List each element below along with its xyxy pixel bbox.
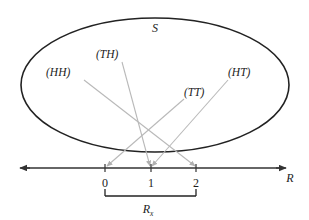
bracket-label-Rx: Rx xyxy=(142,202,154,218)
mapping-arrows xyxy=(84,62,228,166)
sample-space-ellipse xyxy=(21,18,289,152)
range-bracket-group: Rx xyxy=(105,189,196,218)
axis-tick-label-0: 0 xyxy=(102,176,108,190)
outcome-label-HH: (HH) xyxy=(46,66,70,79)
axis-tick-label-1: 1 xyxy=(148,176,154,190)
axis-group: 0 1 2 R xyxy=(20,164,294,190)
outcome-label-TT: (TT) xyxy=(184,86,205,99)
outcome-label-HT: (HT) xyxy=(228,66,251,79)
outcome-label-TH: (TH) xyxy=(96,48,119,61)
arrow-TT-to-0 xyxy=(107,99,184,166)
probability-sample-space-diagram: S (HH) (TH) (TT) (HT) 0 1 2 R Rx xyxy=(0,0,309,220)
arrow-HH-to-2 xyxy=(84,80,195,166)
bracket-label-subscript: x xyxy=(149,209,154,218)
axis-label-R: R xyxy=(285,171,294,185)
sample-space-label: S xyxy=(152,21,158,35)
figure-canvas: S (HH) (TH) (TT) (HT) 0 1 2 R Rx xyxy=(0,0,309,220)
axis-tick-label-2: 2 xyxy=(193,176,199,190)
